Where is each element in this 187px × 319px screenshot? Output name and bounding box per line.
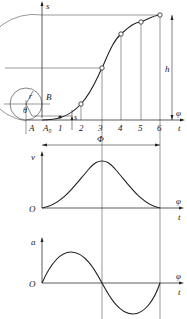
- angle-label: θ: [23, 106, 27, 115]
- a-phi-label: φ: [176, 271, 181, 281]
- a-t-axis-arrow-icon: [179, 282, 184, 285]
- v-axis-label: v: [31, 152, 35, 162]
- point-label-1: 1: [58, 123, 63, 133]
- t-axis-label: t: [178, 123, 181, 133]
- rise-label: h: [165, 64, 170, 74]
- point-label-4: 4: [118, 123, 123, 133]
- point-b-label: B: [46, 92, 52, 102]
- v-origin-label: O: [29, 204, 36, 214]
- v-axis-arrow-icon: [41, 151, 44, 156]
- v-t-axis-arrow-icon: [179, 207, 184, 210]
- a-origin-label: O: [29, 279, 36, 289]
- displacement-plot: [0, 1, 185, 319]
- a-axis-arrow-icon: [41, 237, 44, 242]
- point-label-5: 5: [138, 123, 143, 133]
- radius-label: r: [29, 92, 33, 101]
- v-t-label: t: [178, 212, 181, 222]
- a-axis-label: a: [31, 237, 36, 247]
- v-phi-label: φ: [176, 196, 181, 206]
- velocity-curve: [42, 161, 160, 208]
- velocity-plot: [41, 151, 185, 210]
- t-axis-arrow-icon: [180, 119, 185, 122]
- cam-motion-diagram: s φ t h A A₀ 1 2 3 4 5 6 r θ B s Φ v O φ…: [0, 0, 187, 319]
- phi-axis-label: φ: [176, 108, 181, 118]
- s-axis-label: s: [46, 1, 50, 11]
- point-label-2: 2: [79, 123, 84, 133]
- s-axis-arrow-icon: [41, 1, 44, 6]
- a-t-label: t: [178, 287, 181, 297]
- acceleration-plot: [41, 237, 185, 314]
- small-s-label: s: [74, 113, 77, 122]
- point-label-a0: A₀: [42, 123, 52, 133]
- origin-label: A: [28, 123, 35, 133]
- point-label-6: 6: [157, 123, 162, 133]
- velocity-labels: v O φ t: [29, 152, 181, 222]
- period-label: Φ: [97, 134, 104, 144]
- point-label-3: 3: [97, 123, 103, 133]
